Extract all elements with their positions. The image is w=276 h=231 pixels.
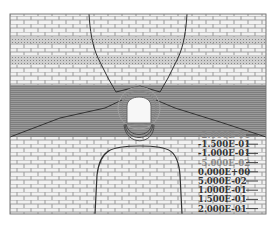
legend-label: 2.000E-01	[198, 204, 247, 214]
stratum-silt-2	[10, 55, 266, 65]
stratum-upper-limestone	[10, 14, 266, 37]
stratum-limestone-3	[10, 65, 266, 85]
contour-plot: -2.000E-01-1.500E-01-1.000E-01-5.000E-02…	[0, 0, 276, 231]
tunnel-opening	[127, 97, 151, 123]
stratum-thin-silt-1	[10, 37, 266, 43]
stratum-limestone-2	[10, 43, 266, 55]
